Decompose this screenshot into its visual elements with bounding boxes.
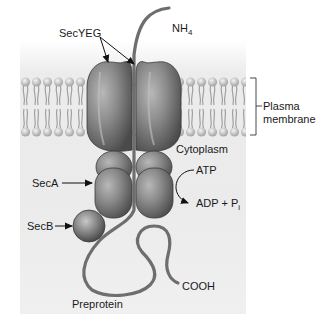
- adp-text: ADP + P: [196, 197, 238, 209]
- cooh-label: COOH: [182, 280, 215, 293]
- plasma-membrane-line2: membrane: [263, 113, 316, 126]
- nh4-text: NH: [172, 22, 188, 34]
- preprotein-label: Preprotein: [72, 298, 123, 311]
- atp-label: ATP: [196, 164, 217, 177]
- pi-subscript: i: [238, 203, 240, 212]
- sec-translocation-diagram: [0, 0, 327, 325]
- secb-chaperone: [73, 210, 105, 242]
- secb-label: SecB: [27, 220, 53, 233]
- plasma-membrane-line1: Plasma: [263, 100, 316, 113]
- nh4-label: NH4: [172, 22, 192, 39]
- seca-label: SecA: [32, 177, 58, 190]
- nh4-subscript: 4: [188, 28, 192, 37]
- adp-label: ADP + Pi: [196, 197, 240, 214]
- cytoplasm-label: Cytoplasm: [176, 143, 228, 156]
- secyeg-label: SecYEG: [59, 27, 101, 40]
- plasma-membrane-label: Plasma membrane: [263, 100, 316, 126]
- preprotein-chain: [84, 8, 178, 295]
